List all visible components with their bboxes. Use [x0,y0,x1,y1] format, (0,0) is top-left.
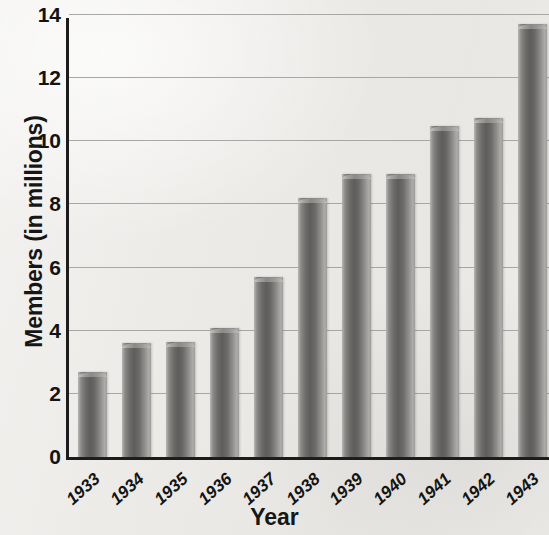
y-axis-tick-label: 12 [38,66,61,90]
y-axis-tick-label: 0 [49,445,61,469]
bar-cap [474,118,503,123]
bar-series [69,18,549,457]
bar [210,328,239,457]
y-axis-tick-label: 10 [38,129,61,153]
bar [166,342,195,457]
y-axis-title: Members (in millions) [21,42,48,422]
bar-cap [342,174,371,179]
bar [518,24,547,457]
x-axis-ticks: 1933193419351936193719381939194019411942… [66,462,549,510]
bar-body [78,372,107,457]
plot-area: 02468101214 [66,18,549,460]
bar-body [386,174,415,457]
y-axis-tick-label: 2 [49,382,61,406]
bar-chart: Members (in millions) 02468101214 193319… [0,0,549,535]
bar-cap [210,328,239,333]
bar [474,118,503,457]
bar-body [166,342,195,457]
gridline [69,14,549,15]
bar-cap [430,126,459,131]
bar-body [342,174,371,457]
bar-body [210,328,239,457]
bar-body [254,277,283,457]
bar-body [518,24,547,457]
y-axis-tick-label: 8 [49,192,61,216]
bar-cap [78,372,107,377]
bar [386,174,415,457]
bar [430,126,459,458]
bar [122,343,151,457]
bar-body [298,198,327,457]
bar-cap [254,277,283,282]
x-axis-title: Year [0,504,549,531]
bar-cap [386,174,415,179]
bar [254,277,283,457]
y-axis-tick-label: 6 [49,256,61,280]
bar-cap [166,342,195,347]
bar-cap [518,24,547,29]
bar-body [122,343,151,457]
bar-cap [298,198,327,203]
bar [298,198,327,457]
y-axis-tick-label: 4 [49,319,61,343]
bar-body [474,118,503,457]
bar [342,174,371,457]
bar [78,372,107,457]
bar-cap [122,343,151,348]
y-axis-tick-label: 14 [38,3,61,27]
bar-body [430,126,459,458]
